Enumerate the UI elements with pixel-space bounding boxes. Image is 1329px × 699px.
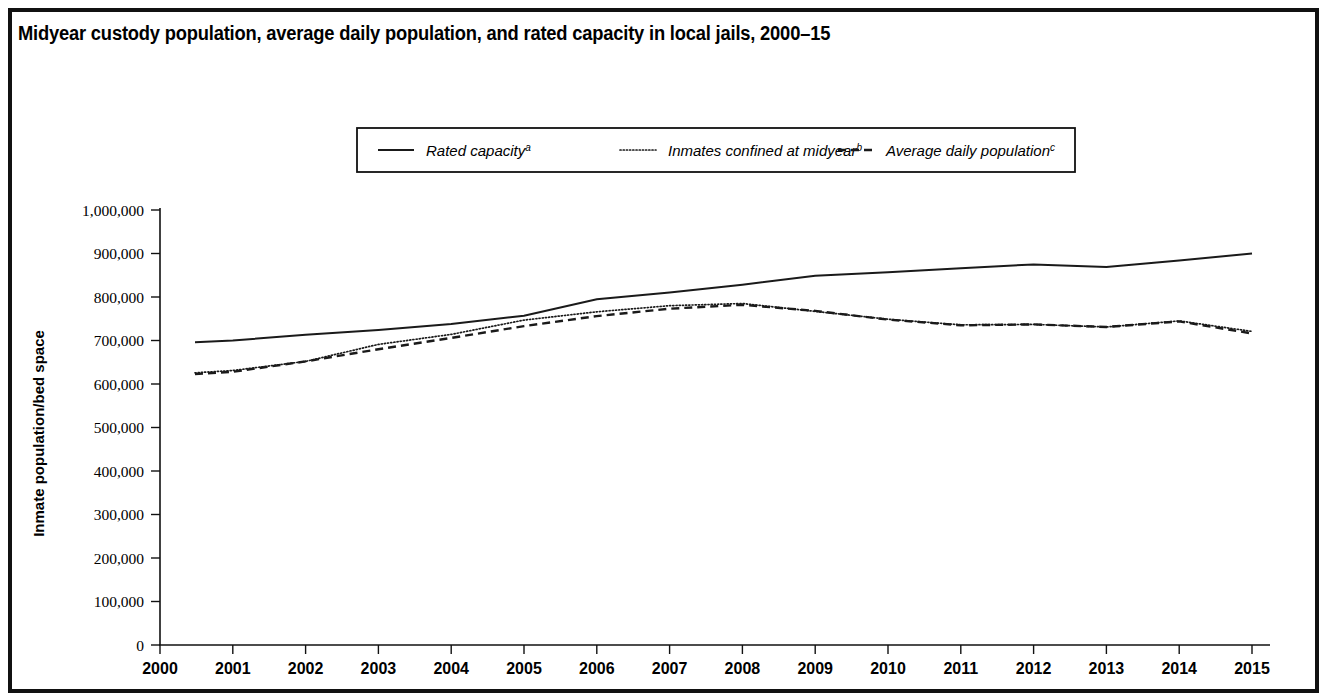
x-axis-tick-label: 2010 [870,660,906,677]
y-axis-tick-label: 0 [136,637,144,654]
y-axis-title: Inmate population/bed space [30,330,47,537]
line-chart: 0100,000200,000300,000400,000500,000600,… [0,0,1329,699]
x-axis-tick-label: 2015 [1234,660,1270,677]
x-axis-tick-label: 2003 [361,660,397,677]
x-axis-tick-label: 2012 [1016,660,1052,677]
x-axis-tick-label: 2002 [288,660,324,677]
x-axis-tick-label: 2009 [797,660,833,677]
series-line-dashed [195,305,1252,374]
y-axis-tick-label: 800,000 [94,289,145,306]
x-axis-tick-label: 2014 [1161,660,1197,677]
series-line-dotted [195,304,1252,373]
y-axis-tick-label: 300,000 [94,506,145,523]
y-axis-tick-label: 900,000 [94,245,145,262]
x-axis-tick-label: 2011 [943,660,978,677]
y-axis-tick-label: 1,000,000 [82,202,144,219]
x-axis-tick-label: 2013 [1089,660,1125,677]
x-axis-tick-label: 2005 [506,660,542,677]
y-axis-tick-label: 400,000 [94,463,145,480]
y-axis-tick-label: 700,000 [94,332,145,349]
x-axis-tick-label: 2008 [725,660,761,677]
x-axis-tick-label: 2007 [652,660,688,677]
x-axis-tick-label: 2000 [142,660,178,677]
legend-label: Rated capacitya [426,142,531,159]
legend-label: Inmates confined at midyearb [668,142,862,159]
x-axis-tick-label: 2001 [215,660,251,677]
series-layer [195,254,1252,375]
x-axis-tick-label: 2004 [433,660,469,677]
y-axis-tick-label: 200,000 [94,550,145,567]
x-axis-tick-label: 2006 [579,660,615,677]
y-axis-tick-label: 100,000 [94,593,145,610]
axes-layer: 0100,000200,000300,000400,000500,000600,… [30,202,1270,678]
chart-legend: Rated capacityaInmates confined at midye… [357,128,1075,172]
y-axis-tick-label: 500,000 [94,419,145,436]
series-line-solid [195,254,1252,343]
figure-container: Midyear custody population, average dail… [0,0,1329,699]
legend-label: Average daily populationc [885,142,1055,159]
y-axis-tick-label: 600,000 [94,376,145,393]
